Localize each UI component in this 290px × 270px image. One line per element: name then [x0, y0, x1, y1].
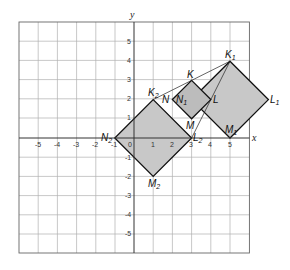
label-n2: N2	[101, 132, 112, 144]
svg-text:2: 2	[127, 95, 131, 102]
label-k1: K1	[225, 49, 236, 61]
svg-text:-4: -4	[125, 211, 131, 218]
svg-text:5: 5	[228, 141, 232, 148]
svg-text:3: 3	[127, 76, 131, 83]
svg-text:-5: -5	[125, 230, 131, 237]
svg-text:-3: -3	[73, 141, 79, 148]
x-axis-label: x	[251, 132, 257, 143]
svg-text:4: 4	[127, 57, 131, 64]
coordinate-diagram: y x -5 -4 -3 -2 -1 0 1 2 3 4 5 5 4 3 2 1…	[0, 0, 290, 270]
label-m2: M2	[148, 178, 160, 190]
svg-text:-4: -4	[54, 141, 60, 148]
svg-text:-1: -1	[125, 154, 131, 161]
svg-text:-2: -2	[92, 141, 98, 148]
svg-text:1: 1	[151, 141, 155, 148]
label-k: K	[187, 69, 195, 80]
label-l1: L1	[270, 94, 280, 106]
svg-text:2: 2	[170, 141, 174, 148]
label-m: M	[186, 120, 195, 131]
svg-text:0: 0	[128, 141, 132, 148]
label-n: N	[162, 94, 170, 105]
svg-text:1: 1	[127, 114, 131, 121]
label-l2: L2	[193, 132, 203, 144]
svg-text:-3: -3	[125, 192, 131, 199]
label-l: L	[213, 94, 219, 105]
label-k2: K2	[148, 87, 159, 99]
svg-text:-2: -2	[125, 173, 131, 180]
svg-text:-5: -5	[35, 141, 41, 148]
y-axis-label: y	[129, 9, 135, 20]
svg-text:5: 5	[127, 38, 131, 45]
svg-text:4: 4	[208, 141, 212, 148]
